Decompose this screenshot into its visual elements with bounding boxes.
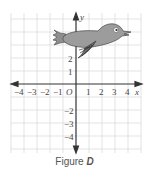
svg-text:1: 1 <box>68 67 73 77</box>
x-axis-label: x <box>134 87 139 97</box>
x-axis-left-arrow-icon <box>11 82 18 87</box>
y-axis-down-arrow-icon <box>74 146 79 153</box>
y-axis-up-arrow-icon <box>74 13 79 20</box>
svg-text:−2: −2 <box>64 106 74 116</box>
svg-text:−3: −3 <box>64 119 74 129</box>
svg-text:2: 2 <box>68 54 73 64</box>
svg-text:4: 4 <box>125 87 130 97</box>
figure-caption: Figure D <box>0 156 149 167</box>
svg-text:−4: −4 <box>64 132 74 142</box>
svg-text:−2: −2 <box>40 87 50 97</box>
origin-label: O <box>66 87 73 97</box>
svg-text:2: 2 <box>99 87 104 97</box>
svg-text:3: 3 <box>112 87 117 97</box>
coordinate-grid-figure: −4 −3 −2 −1 1 2 3 4 x O y 2 1 −2 −3 −4 <box>0 0 149 173</box>
y-axis-tick-labels: 2 1 −2 −3 −4 <box>64 54 74 142</box>
caption-letter: D <box>86 156 93 167</box>
svg-text:−3: −3 <box>27 87 37 97</box>
bird-image <box>53 24 131 58</box>
svg-text:−4: −4 <box>14 87 24 97</box>
caption-prefix: Figure <box>55 156 83 167</box>
svg-text:−1: −1 <box>53 87 63 97</box>
svg-text:1: 1 <box>86 87 91 97</box>
y-axis-label: y <box>79 12 84 22</box>
